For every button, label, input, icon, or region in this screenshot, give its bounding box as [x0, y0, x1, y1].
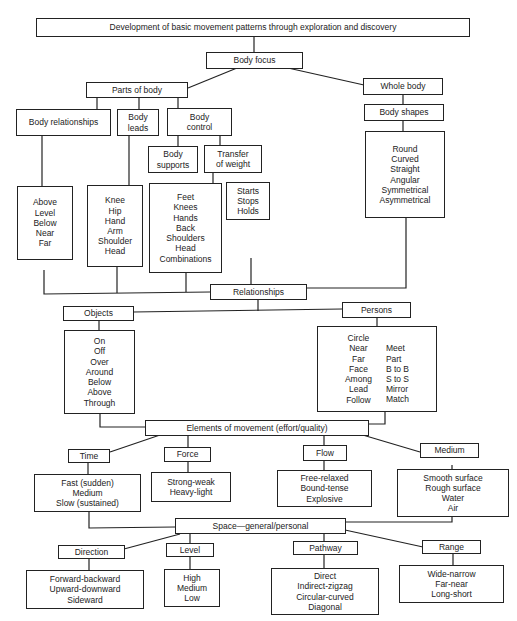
- direction-label: Direction: [75, 547, 109, 557]
- list-item: Hip: [109, 206, 122, 216]
- flow-box: Flow: [303, 445, 347, 461]
- body-relationships-list: Above Level Below Near Far: [17, 186, 73, 260]
- flow-label: Flow: [316, 448, 334, 458]
- list-item: Hands: [173, 213, 198, 223]
- list-item: Medium: [72, 488, 102, 498]
- list-item: S to S: [386, 374, 409, 384]
- list-item: Knee: [105, 195, 125, 205]
- level-label: Level: [180, 545, 200, 555]
- list-item: Stops: [237, 196, 259, 206]
- list-item: Symmetrical: [382, 185, 429, 195]
- list-item: Far-near: [435, 579, 468, 589]
- list-item: Long-short: [431, 589, 472, 599]
- list-item: Indirect-zigzag: [297, 581, 352, 591]
- list-item: Lead: [349, 384, 368, 394]
- list-item: Follow: [346, 395, 371, 405]
- level-list: High Medium Low: [164, 569, 220, 607]
- list-item: Above: [33, 197, 57, 207]
- list-item: Head: [105, 246, 125, 256]
- list-item: Match: [386, 394, 409, 404]
- flow-list: Free-relaxed Bound-tense Explosive: [277, 470, 372, 507]
- pathway-label: Pathway: [309, 543, 342, 553]
- list-item: Mirror: [386, 384, 408, 394]
- space-box: Space—general/personal: [175, 518, 346, 534]
- list-item: Straight: [390, 164, 419, 174]
- range-list: Wide-narrow Far-near Long-short: [399, 565, 504, 603]
- list-item: Part: [386, 354, 402, 364]
- list-item: Below: [88, 377, 111, 387]
- title-text: Development of basic movement patterns t…: [110, 22, 397, 32]
- list-item: Level: [35, 208, 55, 218]
- direction-list: Forward-backward Upward-downward Sidewar…: [26, 570, 144, 609]
- whole-body-label: Whole body: [381, 81, 426, 91]
- transfer-label-line: of weight: [216, 159, 250, 169]
- persons-box: Persons: [342, 302, 411, 318]
- objects-list: On Off Over Around Below Above Through: [64, 330, 135, 414]
- body-leads-list: Knee Hip Hand Arm Shoulder Head: [87, 185, 143, 267]
- objects-box: Objects: [63, 306, 134, 321]
- medium-box: Medium: [420, 443, 479, 458]
- list-item: Sideward: [67, 595, 102, 605]
- list-item: Through: [84, 398, 116, 408]
- list-item: Meet: [386, 343, 405, 353]
- transfer-label-line: Transfer: [217, 149, 248, 159]
- list-item: Far: [39, 238, 52, 248]
- list-item: Smooth surface: [423, 473, 483, 483]
- list-item: Round: [392, 144, 417, 154]
- list-item: Asymmetrical: [379, 195, 430, 205]
- list-item: Direct: [314, 571, 336, 581]
- list-item: Medium: [177, 583, 207, 593]
- body-supports-label-line: Body: [163, 149, 182, 159]
- body-leads-box: Body leads: [117, 109, 159, 136]
- list-item: Wide-narrow: [427, 569, 475, 579]
- list-item: Feet: [177, 192, 194, 202]
- list-item: Near: [349, 343, 367, 353]
- list-item: Fast (sudden): [61, 478, 113, 488]
- force-label: Force: [177, 449, 199, 459]
- list-item: Far: [352, 354, 365, 364]
- body-leads-label-line: leads: [128, 123, 148, 133]
- list-item: Back: [176, 223, 195, 233]
- list-item: Circle: [348, 333, 370, 343]
- list-item: Heavy-light: [170, 487, 213, 497]
- pathway-list: Direct Indirect-zigzag Circular-curved D…: [271, 568, 379, 615]
- parts-of-body-label: Parts of body: [112, 85, 162, 95]
- persons-label: Persons: [361, 305, 392, 315]
- list-item: Shoulders: [166, 233, 204, 243]
- list-item: Starts: [237, 186, 259, 196]
- list-item: Water: [442, 493, 464, 503]
- list-item: Combinations: [160, 254, 212, 264]
- list-item: Rough surface: [425, 483, 480, 493]
- objects-label: Objects: [84, 308, 113, 318]
- persons-list-left: Circle Near Far Face Among Lead Follow: [345, 333, 372, 404]
- body-supports-label-line: supports: [157, 160, 190, 170]
- parts-of-body-box: Parts of body: [86, 82, 188, 98]
- elements-of-movement-box: Elements of movement (effort/quality): [145, 420, 369, 436]
- body-leads-label-line: Body: [128, 112, 147, 122]
- list-item: Shoulder: [98, 236, 132, 246]
- persons-list: Circle Near Far Face Among Lead Follow M…: [317, 326, 437, 412]
- list-item: Free-relaxed: [300, 473, 348, 483]
- list-item: Low: [184, 593, 200, 603]
- body-focus-box: Body focus: [206, 52, 303, 69]
- list-item: Upward-downward: [50, 584, 121, 594]
- list-item: Slow (sustained): [56, 498, 119, 508]
- medium-label: Medium: [434, 445, 464, 455]
- time-label: Time: [80, 451, 99, 461]
- direction-box: Direction: [58, 545, 125, 559]
- list-item: Diagonal: [308, 602, 342, 612]
- list-item: Head: [175, 243, 195, 253]
- range-label: Range: [439, 542, 464, 552]
- force-box: Force: [164, 447, 211, 462]
- elements-of-movement-label: Elements of movement (effort/quality): [186, 423, 327, 433]
- time-list: Fast (sudden) Medium Slow (sustained): [34, 474, 141, 512]
- transfer-of-weight-box: Transfer of weight: [204, 145, 262, 173]
- body-shapes-list: Round Curved Straight Angular Symmetrica…: [365, 131, 445, 218]
- list-item: Arm: [107, 226, 123, 236]
- list-item: B to B: [386, 364, 409, 374]
- list-item: Air: [448, 503, 458, 513]
- body-control-label-line: Body: [190, 112, 209, 122]
- list-item: Hand: [105, 216, 125, 226]
- relationships-label: Relationships: [233, 287, 284, 297]
- list-item: Face: [349, 364, 368, 374]
